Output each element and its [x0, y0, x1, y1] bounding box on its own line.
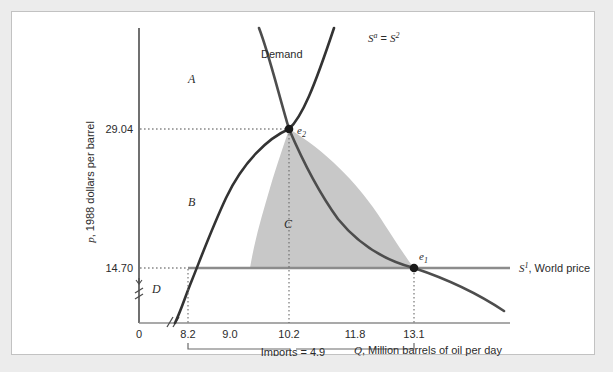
region-label-a: A — [187, 72, 196, 86]
y-tick-label-1: 14.70 — [105, 262, 133, 274]
x-tick-label-5: 13.1 — [403, 328, 424, 340]
y-axis-title: p, 1988 dollars per barrel — [84, 121, 96, 244]
figure-panel: e2 e1 Demand Sa = S2 S1, World price A B… — [11, 11, 595, 355]
equilibrium-point-e2 — [285, 125, 294, 134]
x-tick-label-3: 10.2 — [278, 328, 299, 340]
x-tick-label-2: 9.0 — [222, 328, 237, 340]
region-label-b: B — [188, 195, 196, 209]
world-price-label: S1, World price — [519, 261, 590, 274]
region-label-c: C — [284, 217, 293, 231]
y-tick-label-2: 29.04 — [105, 123, 133, 135]
region-label-d: D — [151, 282, 161, 296]
x-tick-label-1: 8.2 — [180, 328, 195, 340]
demand-curve-label: Demand — [261, 48, 303, 60]
label-e1: e1 — [419, 250, 428, 265]
x-axis-title: Q, Million barrels of oil per day — [354, 344, 502, 356]
shaded-region — [250, 129, 414, 268]
economics-supply-demand-chart: e2 e1 Demand Sa = S2 S1, World price A B… — [12, 12, 596, 356]
imports-annotation-label: Imports = 4.9 — [261, 346, 326, 356]
equilibrium-point-e1 — [410, 264, 419, 273]
x-tick-label-0: 0 — [136, 328, 142, 340]
supply-curve-label: Sa = S2 — [368, 31, 400, 44]
x-tick-label-4: 11.8 — [345, 328, 366, 340]
